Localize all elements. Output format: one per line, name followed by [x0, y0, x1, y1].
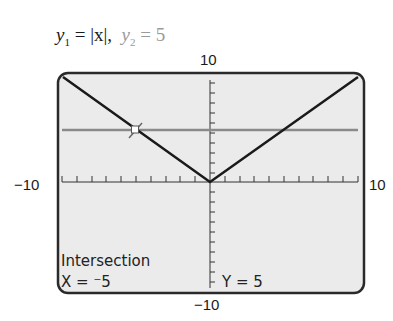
y-readout: Y = 5 [221, 273, 263, 291]
x-readout: X = ⁻5 [61, 273, 111, 291]
calculator-graph: Intersection X = ⁻5 Y = 5 [0, 0, 393, 321]
intersection-label: Intersection [61, 252, 150, 270]
